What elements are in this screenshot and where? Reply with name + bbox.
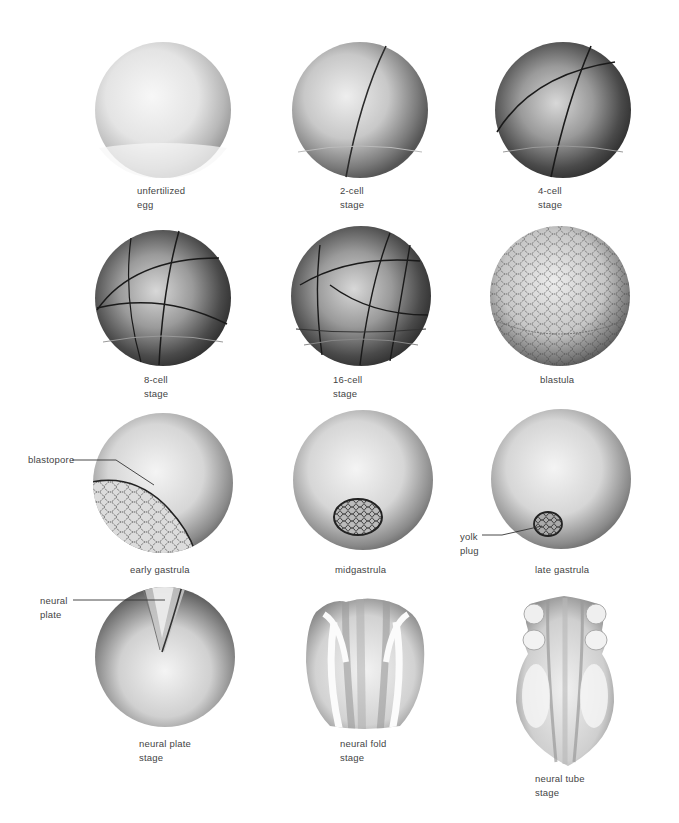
blastopore-leader-line [72,457,212,497]
8-cell-illustration [93,228,233,368]
stage-label-unfertilized-egg: unfertilized egg [137,184,185,211]
neural-tube-illustration [510,592,620,767]
stage-unfertilized-egg [93,40,233,180]
stage-label-16-cell: 16-cell stage [333,373,362,400]
stage-8-cell [93,228,233,368]
2-cell-illustration [290,40,430,180]
yolk-plug-leader-line [482,525,562,545]
unfertilized-egg-illustration [93,40,233,180]
stage-label-blastula: blastula [540,373,574,387]
stage-midgastrula [292,409,434,551]
neural-plate-illustration [94,586,236,728]
stage-label-2-cell: 2-cell stage [340,184,364,211]
blastula-illustration [488,224,633,369]
stage-neural-fold [300,592,430,732]
stage-label-4-cell: 4-cell stage [538,184,562,211]
stage-4-cell [493,40,633,180]
stage-label-neural-fold: neural fold stage [340,737,387,764]
stage-label-neural-plate: neural plate stage [139,737,191,764]
neural-plate-leader-line [73,596,193,606]
stage-blastula [488,224,633,369]
16-cell-illustration [290,225,433,368]
stage-2-cell [290,40,430,180]
stage-neural-plate [94,586,236,728]
callout-blastopore: blastopore [28,453,74,467]
neural-fold-illustration [300,592,430,732]
stage-neural-tube [510,592,620,767]
stage-16-cell [290,225,433,368]
midgastrula-illustration [292,409,434,551]
stage-label-neural-tube: neural tube stage [535,772,585,799]
stage-label-8-cell: 8-cell stage [144,373,168,400]
stage-label-early-gastrula: early gastrula [130,563,190,577]
4-cell-illustration [493,40,633,180]
callout-neural-plate: neural plate [40,594,68,621]
stage-label-midgastrula: midgastrula [335,563,386,577]
stage-label-late-gastrula: late gastrula [535,563,589,577]
callout-yolk-plug: yolk plug [460,530,479,557]
